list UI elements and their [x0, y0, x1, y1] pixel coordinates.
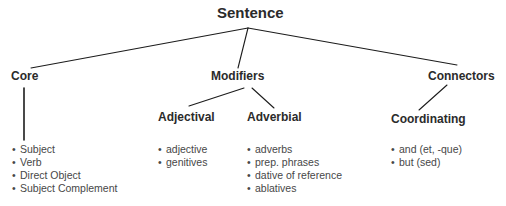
list-item: •prep. phrases	[247, 156, 342, 169]
list-item: •dative of reference	[247, 169, 342, 182]
node-connectors: Connectors	[428, 70, 495, 83]
bullet-icon: •	[247, 156, 251, 169]
node-adverbial: Adverbial	[247, 111, 302, 124]
list-item: •ablatives	[247, 182, 342, 195]
list-item-label: Verb	[20, 156, 42, 168]
bullet-icon: •	[391, 156, 395, 169]
list-item-label: and (et, -que)	[399, 143, 462, 155]
edge-sentence-modifiers	[238, 28, 248, 68]
bullet-icon: •	[12, 182, 16, 195]
bullet-icon: •	[247, 182, 251, 195]
list-item: •Subject Complement	[12, 182, 117, 195]
list-item-label: prep. phrases	[255, 156, 319, 168]
list-item: •Verb	[12, 156, 117, 169]
list-item: •Direct Object	[12, 169, 117, 182]
list-item: •Subject	[12, 143, 117, 156]
list-adjectival-items: •adjective•genitives	[158, 143, 207, 169]
list-item-label: adverbs	[255, 143, 292, 155]
edge-connectors-coordinating	[419, 85, 447, 110]
list-item: •adjective	[158, 143, 207, 156]
bullet-icon: •	[247, 143, 251, 156]
list-item-label: ablatives	[255, 182, 296, 194]
node-modifiers: Modifiers	[211, 70, 264, 83]
node-sentence: Sentence	[217, 5, 284, 21]
list-item-label: but (sed)	[399, 156, 440, 168]
list-item-label: genitives	[166, 156, 207, 168]
bullet-icon: •	[12, 169, 16, 182]
edge-modifiers-adjectival	[189, 88, 244, 106]
edge-sentence-connectors	[248, 28, 457, 65]
edge-sentence-core	[31, 28, 248, 68]
list-core-items: •Subject•Verb•Direct Object•Subject Comp…	[12, 143, 117, 195]
node-core: Core	[11, 70, 38, 83]
bullet-icon: •	[12, 143, 16, 156]
edge-modifiers-adverbial	[252, 88, 274, 108]
bullet-icon: •	[158, 156, 162, 169]
node-coordinating: Coordinating	[391, 113, 466, 126]
sentence-structure-diagram: Sentence Core Modifiers Connectors Adjec…	[0, 0, 506, 206]
bullet-icon: •	[12, 156, 16, 169]
list-item: •but (sed)	[391, 156, 462, 169]
node-adjectival: Adjectival	[158, 111, 215, 124]
list-item-label: adjective	[166, 143, 207, 155]
bullet-icon: •	[158, 143, 162, 156]
list-item-label: dative of reference	[255, 169, 342, 181]
bullet-icon: •	[247, 169, 251, 182]
list-coordinating-items: •and (et, -que)•but (sed)	[391, 143, 462, 169]
list-item: •genitives	[158, 156, 207, 169]
list-item: •adverbs	[247, 143, 342, 156]
list-item-label: Subject Complement	[20, 182, 117, 194]
list-adverbial-items: •adverbs•prep. phrases•dative of referen…	[247, 143, 342, 195]
list-item: •and (et, -que)	[391, 143, 462, 156]
list-item-label: Subject	[20, 143, 55, 155]
bullet-icon: •	[391, 143, 395, 156]
list-item-label: Direct Object	[20, 169, 81, 181]
